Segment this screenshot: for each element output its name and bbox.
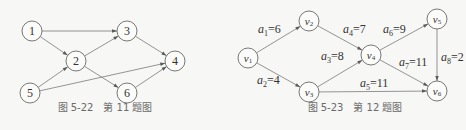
weight-label-a5: a5=11	[360, 76, 388, 92]
node-v6: v6	[427, 81, 447, 101]
node-label: 5	[27, 86, 33, 100]
node-1: 1	[22, 21, 42, 41]
node-label: 2	[73, 54, 79, 68]
figures-canvas: 123456 图 5-22 第 11 题图 a1=6a2=4a3=8a4=7a5…	[0, 0, 466, 130]
edge-2-to-3	[85, 36, 119, 56]
weight-label-a3: a3=8	[321, 49, 344, 65]
node-2: 2	[66, 51, 86, 71]
edge-v3-to-v6	[319, 91, 427, 92]
edge-1-to-2	[40, 37, 67, 56]
node-v3: v3	[299, 82, 319, 102]
node-label: 1	[29, 24, 35, 38]
edge-3-to-4	[135, 36, 166, 55]
node-6: 6	[117, 83, 137, 103]
edge-5-to-2	[38, 67, 68, 88]
figure-5-23-caption: 图 5-23 第 12 题图	[308, 101, 403, 113]
node-v5: v5	[427, 9, 447, 29]
weight-label-a7: a7=11	[399, 55, 427, 71]
node-v1: v1	[238, 48, 258, 68]
node-label: 4	[172, 54, 178, 68]
figure-5-22-graph: 123456 图 5-22 第 11 题图	[20, 21, 185, 113]
node-label: 3	[124, 24, 130, 38]
weight-label-a1: a1=6	[258, 22, 281, 38]
edge-6-to-4	[135, 67, 166, 88]
figure-5-23-graph: a1=6a2=4a3=8a4=7a5=11a6=9a7=11a8=2 v1v2v…	[238, 9, 464, 113]
node-4: 4	[165, 51, 185, 71]
weight-label-a4: a4=7	[343, 22, 366, 38]
edge-5-to-4	[40, 63, 165, 91]
node-3: 3	[117, 21, 137, 41]
weight-label-a6: a6=9	[383, 22, 406, 38]
figure-5-22-nodes: 123456	[20, 21, 185, 103]
node-label: 6	[124, 86, 130, 100]
edge-v3-to-v4	[318, 60, 363, 87]
node-v4: v4	[361, 45, 381, 65]
figure-5-22-edges	[38, 31, 166, 91]
figure-5-22-caption: 图 5-22 第 11 题图	[58, 101, 153, 113]
node-5: 5	[20, 83, 40, 103]
node-v2: v2	[299, 11, 319, 31]
weight-label-a8: a8=2	[441, 50, 464, 66]
weight-label-a2: a2=4	[257, 73, 280, 89]
